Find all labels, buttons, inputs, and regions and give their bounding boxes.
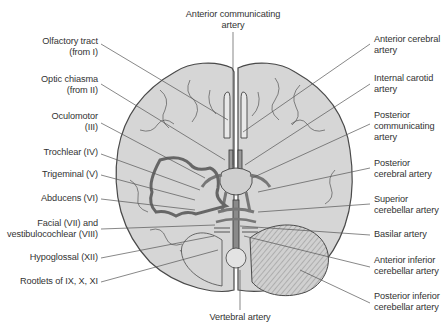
- label-superior-cerebellar-artery: Superior cerebellar artery: [374, 194, 439, 216]
- label-anterior-inferior-cerebellar-artery: Anterior inferior cerebellar artery: [374, 255, 439, 277]
- label-rootlets-ix-x-xi: Rootlets of IX, X, XI: [20, 276, 98, 287]
- cerebellum-right: [250, 225, 328, 296]
- olfactory-tracts: [224, 92, 247, 138]
- label-trigeminal: Trigeminal (V): [42, 169, 98, 180]
- label-olfactory-tract: Olfactory tract (from I): [42, 36, 98, 58]
- label-hypoglossal: Hypoglossal (XII): [30, 252, 98, 263]
- label-facial-vestibulocochlear: Facial (VII) and vestibulocochlear (VIII…: [7, 218, 98, 240]
- label-posterior-communicating-artery: Posterior communicating artery: [374, 110, 435, 143]
- label-basilar-artery: Basilar artery: [374, 229, 427, 240]
- label-trochlear: Trochlear (IV): [44, 147, 98, 158]
- label-anterior-cerebral-artery: Anterior cerebral artery: [374, 34, 440, 56]
- label-oculomotor: Oculomotor (III): [52, 111, 99, 133]
- label-anterior-communicating-artery: Anterior communicating artery: [168, 9, 298, 31]
- label-posterior-cerebral-artery: Posterior cerebral artery: [374, 158, 432, 180]
- medulla-section: [226, 248, 246, 268]
- label-vertebral-artery: Vertebral artery: [180, 312, 300, 323]
- label-internal-carotid-artery: Internal carotid artery: [374, 73, 433, 95]
- label-posterior-inferior-cerebellar-artery: Posterior inferior cerebellar artery: [374, 291, 440, 313]
- label-optic-chiasma: Optic chiasma (from II): [41, 74, 98, 96]
- label-abducens: Abducens (VI): [41, 193, 98, 204]
